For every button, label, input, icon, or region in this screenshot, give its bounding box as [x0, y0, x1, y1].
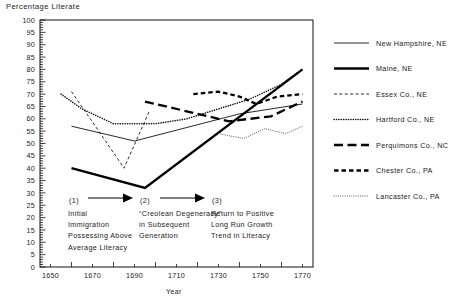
annotation-text-line: Return to Positive [211, 209, 274, 218]
annotation-text-line: Initial [68, 209, 87, 218]
y-axis-title: Percentage Literate [6, 2, 80, 11]
x-tick-label: 1710 [168, 271, 185, 280]
annotation-text-line: Possessing Above [68, 231, 132, 240]
series-line-1 [72, 69, 303, 188]
annotation-text-line: Long Run Growth [211, 220, 273, 229]
plot-border [40, 20, 313, 267]
legend-label-6: Lancaster Co., PA [376, 192, 440, 201]
y-tick-label: 15 [27, 226, 35, 235]
legend-label-3: Hartford Co., NE [376, 115, 435, 124]
annotation-text-line: Average Literacy [68, 243, 127, 252]
series-line-0 [72, 104, 303, 141]
y-tick-label: 35 [27, 176, 35, 185]
y-tick-label: 40 [27, 164, 35, 173]
y-axis-ticks [40, 20, 46, 267]
y-tick-label: 25 [27, 201, 35, 210]
y-tick-label: 50 [27, 139, 35, 148]
y-tick-label: 85 [27, 53, 35, 62]
legend-label-4: Perquimons Co., NC [376, 141, 448, 150]
y-tick-label: 100 [22, 16, 35, 25]
annotation-text-line: in Subsequent [139, 220, 190, 229]
legend-label-1: Maine, NE [376, 64, 413, 73]
chart-canvas: 0510152025303540455055606570758085909510… [0, 0, 453, 306]
y-tick-label: 55 [27, 127, 35, 136]
series-line-6 [219, 126, 303, 138]
annotation-text-line: “Creolean Degeneracy” [139, 209, 221, 218]
x-tick-label: 1730 [210, 271, 227, 280]
x-tick-label: 1690 [126, 271, 143, 280]
series-line-5 [193, 92, 302, 104]
y-tick-label: 70 [27, 90, 35, 99]
y-tick-label: 30 [27, 189, 35, 198]
y-tick-label: 80 [27, 65, 35, 74]
x-tick-label: 1670 [84, 271, 101, 280]
y-tick-label: 90 [27, 40, 35, 49]
series-line-2 [72, 92, 150, 169]
y-tick-label: 75 [27, 77, 35, 86]
legend-label-2: Essex Co., NE [376, 90, 427, 99]
chart-legend: New Hampshire, NEMaine, NEEssex Co., NEH… [334, 39, 448, 201]
annotation-text-line: Trend in Literacy [211, 231, 270, 240]
legend-label-0: New Hampshire, NE [376, 39, 447, 48]
x-tick-label: 1750 [252, 271, 269, 280]
annotation-group: (1)InitialImmigrationPossessing AboveAve… [68, 194, 274, 252]
series-line-3 [61, 72, 298, 124]
y-tick-label: 65 [27, 102, 35, 111]
x-tick-label: 1650 [42, 271, 59, 280]
annotation-marker-2: (2) [140, 196, 150, 205]
arrow-2-to-3-head [195, 194, 205, 203]
y-tick-label: 0 [31, 263, 35, 272]
y-tick-label: 60 [27, 114, 35, 123]
figure-root: Percentage Literate Year 051015202530354… [0, 0, 453, 306]
annotation-text-line: Generation [139, 231, 178, 240]
x-axis-tick-labels: 1650167016901710173017501770 [42, 271, 311, 280]
y-tick-label: 20 [27, 213, 35, 222]
y-tick-label: 95 [27, 28, 35, 37]
legend-label-5: Chester Co., PA [376, 166, 433, 175]
y-axis-tick-labels: 0510152025303540455055606570758085909510… [22, 16, 35, 272]
annotation-marker-3: (3) [212, 196, 222, 205]
annotation-text-line: Immigration [68, 220, 109, 229]
arrow-1-to-2-head [123, 194, 133, 203]
y-tick-label: 45 [27, 151, 35, 160]
y-tick-label: 10 [27, 238, 35, 247]
plot-frame [40, 20, 313, 267]
annotation-marker-1: (1) [69, 196, 79, 205]
x-axis-title: Year [166, 288, 182, 295]
x-axis-ticks [51, 262, 303, 267]
y-tick-label: 5 [31, 250, 35, 259]
x-tick-label: 1770 [294, 271, 311, 280]
data-series-group [61, 69, 303, 188]
